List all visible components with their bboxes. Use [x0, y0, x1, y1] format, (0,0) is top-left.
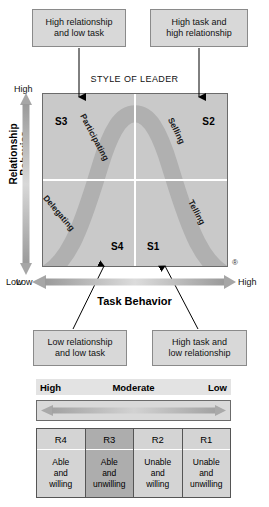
- readiness-table: R4AbleandwillingR3AbleandunwillingR2Unab…: [36, 428, 231, 498]
- callout-high-task-high-relationship: High task andhigh relationship: [150, 9, 248, 47]
- quadrant-label-s2: S2: [202, 116, 215, 127]
- readiness-code-r1: R1: [183, 429, 231, 450]
- x-axis-low-label: Low: [6, 277, 23, 287]
- readiness-desc-r1: Unableandunwilling: [183, 450, 231, 497]
- callout-tr-text: High task andhigh relationship: [166, 17, 232, 39]
- readiness-desc-r2: Unableandwilling: [134, 450, 182, 497]
- chart-horizontal-divider: [43, 179, 227, 181]
- readiness-code-r4: R4: [37, 429, 85, 450]
- readiness-desc-r3: Ableandunwilling: [86, 450, 134, 497]
- readiness-code-r2: R2: [134, 429, 182, 450]
- readiness-header-high: High: [40, 382, 102, 393]
- readiness-header-moderate: Moderate: [102, 382, 164, 393]
- x-axis-title: Task Behavior: [0, 295, 269, 307]
- callout-high-task-low-relationship: High task andlow relationship: [152, 330, 247, 366]
- diagram-canvas: High relationshipand low task High task …: [0, 0, 269, 507]
- y-axis-title: Relationship Behavior: [8, 109, 30, 199]
- callout-br-text: High task andlow relationship: [168, 337, 230, 359]
- y-axis-high-label: High: [14, 84, 33, 94]
- callout-low-relationship-low-task: Low relationshipand low task: [33, 330, 127, 366]
- readiness-range-arrow-box: [36, 400, 231, 421]
- style-of-leader-title: STYLE OF LEADER: [0, 74, 269, 84]
- callout-high-relationship-low-task: High relationshipand low task: [32, 9, 126, 47]
- readiness-desc-r4: Ableandwilling: [37, 450, 85, 497]
- readiness-level-header: High Moderate Low: [36, 379, 231, 395]
- readiness-column-r2: R2Unableandwilling: [134, 429, 183, 497]
- readiness-column-r1: R1Unableandunwilling: [183, 429, 231, 497]
- quadrant-label-s3: S3: [55, 116, 68, 127]
- quadrant-label-s4: S4: [111, 241, 124, 252]
- registered-trademark-icon: ®: [232, 258, 238, 267]
- callout-tl-text: High relationshipand low task: [45, 17, 112, 39]
- readiness-column-r4: R4Ableandwilling: [37, 429, 86, 497]
- callout-bl-text: Low relationshipand low task: [47, 337, 112, 359]
- readiness-header-low: Low: [165, 382, 227, 393]
- x-axis-high-label: High: [238, 277, 257, 287]
- quadrant-label-s1: S1: [147, 241, 160, 252]
- readiness-code-r3: R3: [86, 429, 134, 450]
- leadership-style-chart: S3 S2 S4 S1 Participating Selling Delega…: [42, 93, 228, 267]
- readiness-column-r3: R3Ableandunwilling: [86, 429, 135, 497]
